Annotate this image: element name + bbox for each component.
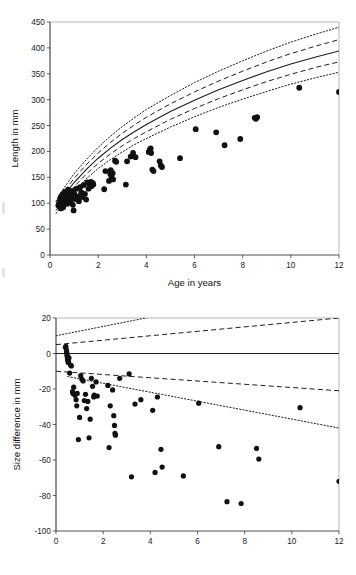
data-point xyxy=(82,191,88,197)
data-point xyxy=(84,406,89,411)
data-point xyxy=(150,408,155,413)
y-tick-label: 0 xyxy=(46,350,51,359)
data-point xyxy=(297,405,302,410)
data-point xyxy=(105,383,110,388)
data-point xyxy=(213,129,219,135)
data-point xyxy=(256,457,261,462)
data-point xyxy=(117,376,122,381)
data-point xyxy=(296,85,302,91)
data-point xyxy=(81,378,86,383)
data-point xyxy=(237,136,243,142)
data-point xyxy=(90,384,95,389)
x-tick-label: 6 xyxy=(192,261,197,270)
plot-frame xyxy=(56,318,339,531)
curve-outer-band-upper xyxy=(56,27,339,201)
data-point xyxy=(93,379,98,384)
y-tick-label: 100 xyxy=(31,199,45,208)
curve-outer-band-lower xyxy=(56,72,339,213)
x-tick-label: 2 xyxy=(96,261,101,270)
x-tick-label: 2 xyxy=(101,537,106,546)
data-point xyxy=(336,89,342,95)
points-group xyxy=(56,85,342,214)
data-point xyxy=(101,186,107,192)
data-point xyxy=(160,465,165,470)
points-group xyxy=(63,344,342,506)
y-tick-label: 400 xyxy=(31,44,45,53)
data-point xyxy=(95,394,100,399)
data-point xyxy=(89,376,94,381)
data-point xyxy=(74,403,79,408)
data-point xyxy=(77,415,82,420)
curve-inner-band-upper xyxy=(56,40,339,205)
data-point xyxy=(193,126,199,132)
data-point xyxy=(254,114,260,120)
x-tick-label: 8 xyxy=(240,261,245,270)
y-axis-title: Size difference in mm xyxy=(11,378,22,470)
data-point xyxy=(113,433,118,438)
data-point xyxy=(129,474,134,479)
data-point xyxy=(196,401,201,406)
x-tick-label: 12 xyxy=(334,261,344,270)
chart-panel-size-difference: -100-80-60-40-20020024681012Size differe… xyxy=(0,295,356,575)
y-tick-label: 450 xyxy=(31,18,45,27)
x-tick-label: 12 xyxy=(334,537,344,546)
y-tick-label: 300 xyxy=(31,96,45,105)
y-tick-label: 200 xyxy=(31,147,45,156)
y-tick-label: 350 xyxy=(31,70,45,79)
data-point xyxy=(90,182,96,188)
data-point xyxy=(181,473,186,478)
data-point xyxy=(216,444,221,449)
data-point xyxy=(133,154,139,160)
curves-group xyxy=(56,317,339,428)
x-tick-label: 8 xyxy=(242,537,247,546)
data-point xyxy=(224,499,229,504)
figure-container: 050100150200250300350400450024681012Leng… xyxy=(0,0,356,575)
data-point xyxy=(70,202,76,208)
data-point xyxy=(110,177,116,183)
chart-panel-length-vs-age: 050100150200250300350400450024681012Leng… xyxy=(0,0,356,295)
data-point xyxy=(73,397,78,402)
data-point xyxy=(86,435,91,440)
x-tick-label: 0 xyxy=(54,537,59,546)
x-tick-label: 4 xyxy=(148,537,153,546)
data-point xyxy=(336,479,341,484)
data-point xyxy=(111,413,116,418)
data-point xyxy=(159,164,165,170)
data-point xyxy=(148,150,154,156)
data-point xyxy=(75,391,80,396)
data-point xyxy=(132,401,137,406)
data-point xyxy=(254,446,259,451)
x-axis-title: Age in years xyxy=(168,277,222,288)
data-point xyxy=(69,363,74,368)
data-point xyxy=(239,501,244,506)
y-tick-label: 250 xyxy=(31,122,45,131)
x-tick-label: 10 xyxy=(286,261,296,270)
data-point xyxy=(155,394,160,399)
data-point xyxy=(110,170,116,176)
data-point xyxy=(158,447,163,452)
curve-outer-band-upper xyxy=(56,317,150,336)
data-point xyxy=(88,417,93,422)
y-tick-label: -60 xyxy=(39,456,51,465)
data-point xyxy=(76,437,81,442)
y-tick-label: 50 xyxy=(36,225,46,234)
data-point xyxy=(71,385,76,390)
data-point xyxy=(83,197,89,203)
y-tick-label: -100 xyxy=(34,527,51,536)
data-point xyxy=(71,208,77,214)
x-tick-label: 10 xyxy=(287,537,297,546)
y-axis-title: Length in mm xyxy=(9,109,20,167)
curve-inner-band-upper xyxy=(56,318,339,345)
data-point xyxy=(177,155,183,161)
y-tick-label: 20 xyxy=(42,314,52,323)
data-point xyxy=(151,168,157,174)
data-point xyxy=(85,399,90,404)
data-point xyxy=(113,159,119,165)
plot-frame xyxy=(50,22,339,255)
data-point xyxy=(138,397,143,402)
y-tick-label: 0 xyxy=(40,251,45,260)
x-tick-label: 0 xyxy=(48,261,53,270)
data-point xyxy=(108,403,113,408)
data-point xyxy=(66,355,71,360)
data-point xyxy=(110,387,115,392)
